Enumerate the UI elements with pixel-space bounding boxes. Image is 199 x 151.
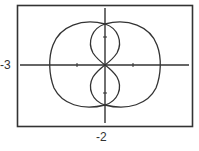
- bottom-tick-label: -2: [96, 130, 107, 144]
- left-tick-label: -3: [0, 58, 11, 72]
- plot-window: [0, 0, 199, 151]
